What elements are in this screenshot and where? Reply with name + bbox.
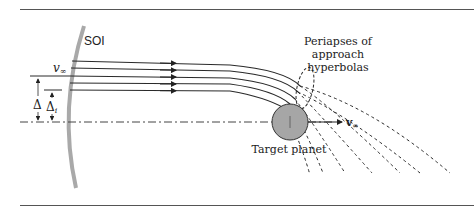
- delta-i-label: Δi: [46, 100, 58, 115]
- v-inf-label-right: v∞: [345, 116, 358, 130]
- svg-text:approach: approach: [312, 48, 364, 61]
- incoming-trajectories: [70, 61, 300, 108]
- delta-label: Δ: [33, 98, 42, 112]
- outgoing-trajectories: [284, 86, 450, 175]
- v-inf-label-left: v∞: [53, 61, 66, 76]
- svg-text:hyperbolas: hyperbolas: [307, 61, 369, 74]
- trajectory-arrows: [160, 63, 176, 91]
- target-planet-label: Target planet: [252, 143, 327, 156]
- periapses-label: Periapses of approach hyperbolas: [304, 35, 373, 74]
- soi-boundary: [69, 26, 84, 188]
- soi-label: SOI: [84, 34, 105, 48]
- approach-hyperbolas-diagram: SOI v∞ Δ Δi: [0, 0, 474, 208]
- svg-text:Periapses of: Periapses of: [304, 35, 373, 48]
